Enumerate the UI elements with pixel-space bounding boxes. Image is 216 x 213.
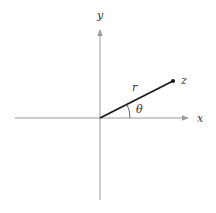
y-axis-label: y [96,9,104,22]
point-z [171,79,175,83]
angle-label-theta: θ [136,103,143,116]
point-label-z: z [180,74,187,87]
angle-arc [127,105,130,119]
x-axis-label: x [197,112,204,125]
length-label-r: r [132,81,138,94]
polar-diagram: y x z r θ [0,0,216,213]
